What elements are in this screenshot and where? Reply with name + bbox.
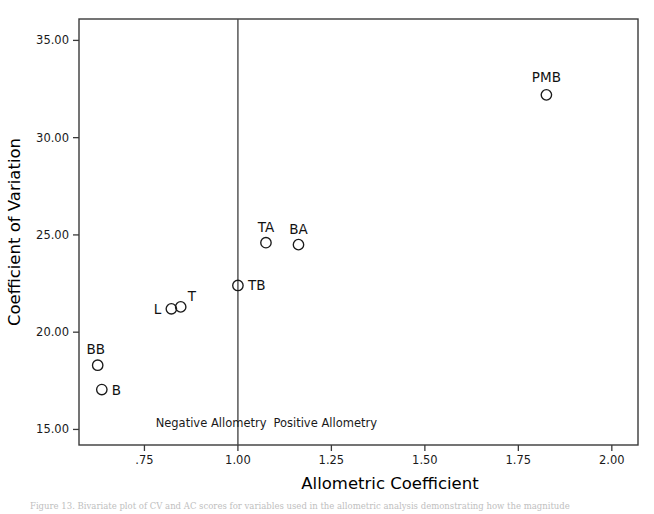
data-point-L: L [154, 301, 177, 317]
x-tick-label: 2.00 [599, 453, 625, 467]
positive-allometry-label: Positive Allometry [273, 416, 377, 430]
point-label-BA: BA [289, 221, 308, 237]
x-tick-label: 1.50 [412, 453, 438, 467]
region-annotations: Negative AllometryPositive Allometry [156, 416, 378, 430]
point-label-T: T [187, 288, 197, 304]
point-marker-BA [293, 239, 303, 249]
data-point-BA: BA [289, 221, 308, 250]
y-axis-ticks: 15.0020.0025.0030.0035.00 [36, 33, 79, 436]
y-tick-label: 25.00 [36, 228, 69, 242]
point-label-TB: TB [247, 277, 266, 293]
figure-caption: Figure 13. Bivariate plot of CV and AC s… [30, 501, 630, 512]
data-point-BB: BB [86, 341, 105, 370]
point-marker-L [166, 304, 176, 314]
point-label-B: B [112, 382, 121, 398]
data-points: BBBLTTBTABAPMB [86, 69, 560, 398]
y-tick-label: 30.00 [36, 131, 69, 145]
y-tick-label: 35.00 [36, 33, 69, 47]
point-label-TA: TA [257, 219, 275, 235]
point-marker-BB [92, 360, 102, 370]
point-marker-B [97, 384, 107, 394]
scatter-plot: 15.0020.0025.0030.0035.00 .751.001.251.5… [0, 0, 654, 514]
x-tick-label: 1.25 [319, 453, 345, 467]
x-tick-label: 1.00 [225, 453, 251, 467]
data-point-PMB: PMB [532, 69, 561, 100]
point-label-PMB: PMB [532, 69, 561, 85]
point-marker-TA [261, 237, 271, 247]
y-tick-label: 20.00 [36, 325, 69, 339]
x-axis-ticks: .751.001.251.501.752.00 [135, 445, 624, 467]
data-point-B: B [97, 382, 121, 398]
point-marker-PMB [541, 90, 551, 100]
point-marker-T [176, 302, 186, 312]
x-axis-title: Allometric Coefficient [301, 474, 479, 493]
negative-allometry-label: Negative Allometry [156, 416, 267, 430]
x-tick-label: 1.75 [506, 453, 532, 467]
y-axis-title: Coefficient of Variation [5, 138, 24, 326]
data-point-T: T [176, 288, 197, 312]
point-label-L: L [154, 301, 162, 317]
point-label-BB: BB [86, 341, 105, 357]
y-tick-label: 15.00 [36, 422, 69, 436]
figure-container: 15.0020.0025.0030.0035.00 .751.001.251.5… [0, 0, 654, 514]
data-point-TA: TA [257, 219, 275, 248]
x-tick-label: .75 [135, 453, 153, 467]
